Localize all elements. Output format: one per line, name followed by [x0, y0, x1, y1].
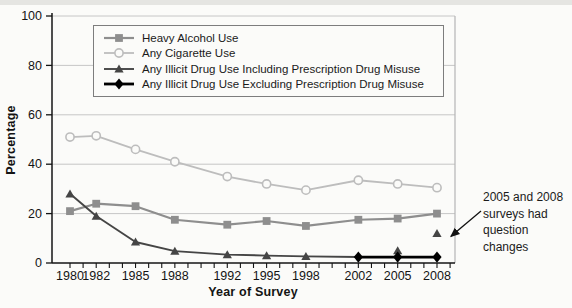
marker-square-1992 [223, 221, 231, 229]
series-line-heavy-alcohol-use [70, 204, 437, 226]
marker-square-1988 [171, 216, 179, 224]
series-any-illicit-drug-use-including-prescription-drug-misuse [65, 189, 441, 259]
x-tick-label-1992: 1992 [213, 269, 241, 283]
marker-circle-open-1980 [66, 133, 74, 141]
marker-square-2002 [354, 216, 362, 224]
annotation-line: surveys had [483, 206, 572, 223]
y-ticks: 020406080100 [21, 9, 52, 270]
x-tick-label-2005: 2005 [384, 269, 412, 283]
x-tick-label-1982: 1982 [82, 269, 110, 283]
marker-square-1998 [302, 222, 310, 230]
legend-label: Heavy Alcohol Use [142, 32, 239, 44]
annotation-line: 2005 and 2008 [483, 189, 572, 206]
legend-sample-marker [115, 49, 123, 57]
marker-circle-open-2008 [433, 184, 441, 192]
marker-circle-open-1988 [171, 158, 179, 166]
x-tick-label-2002: 2002 [344, 269, 372, 283]
marker-triangle-1980 [65, 189, 74, 197]
legend-item-any-illicit-drug-use-including-prescription-drug-misuse: Any Illicit Drug Use Including Prescript… [103, 62, 443, 76]
marker-circle-open-1998 [302, 186, 310, 194]
legend-item-any-cigarette-use: Any Cigarette Use [103, 46, 443, 60]
survey-trend-figure: 0204060801001980198219851988199219951998… [0, 0, 572, 308]
x-tick-label-2008: 2008 [423, 269, 451, 283]
y-tick-label-100: 100 [21, 9, 42, 23]
y-tick-label-0: 0 [35, 256, 42, 270]
legend-label: Any Illicit Drug Use Excluding Prescript… [142, 78, 424, 90]
marker-diamond-2008 [432, 251, 441, 262]
y-tick-label-60: 60 [28, 108, 42, 122]
legend-label: Any Cigarette Use [142, 47, 235, 59]
x-axis-title: Year of Survey [188, 285, 318, 299]
x-tick-label-1998: 1998 [292, 269, 320, 283]
y-tick-label-20: 20 [28, 207, 42, 221]
legend-sample-marker [115, 34, 123, 42]
annotation-note: 2005 and 2008 surveys had question chang… [483, 189, 572, 255]
y-tick-label-40: 40 [28, 157, 42, 171]
legend: Heavy Alcohol UseAny Cigarette UseAny Il… [93, 25, 444, 97]
series-line-any-cigarette-use [70, 136, 437, 190]
triangle-marker-sample-icon [103, 62, 135, 76]
x-tick-label-1980: 1980 [56, 269, 84, 283]
marker-circle-open-1982 [92, 132, 100, 140]
series-heavy-alcohol-use [66, 200, 441, 230]
legend-label: Any Illicit Drug Use Including Prescript… [142, 63, 420, 75]
x-tick-label-1985: 1985 [122, 269, 150, 283]
square-marker-sample-icon [103, 31, 135, 45]
annotation-line: changes [483, 239, 572, 256]
marker-square-1982 [92, 200, 100, 208]
series-any-cigarette-use [66, 132, 441, 195]
legend-item-heavy-alcohol-use: Heavy Alcohol Use [103, 31, 443, 45]
x-tick-label-1995: 1995 [253, 269, 281, 283]
marker-square-1980 [66, 207, 74, 215]
diamond-marker-sample-icon [103, 77, 135, 91]
marker-triangle-2008 [432, 229, 441, 237]
marker-square-1985 [132, 202, 140, 210]
marker-circle-open-2005 [394, 180, 402, 188]
circle-open-marker-sample-icon [103, 46, 135, 60]
x-ticks: 1980198219851988199219951998200220052008 [56, 263, 451, 283]
y-axis-title: Percentage [4, 75, 18, 205]
marker-circle-open-2002 [354, 176, 362, 184]
marker-circle-open-1992 [223, 172, 231, 180]
legend-sample-marker [114, 79, 123, 90]
marker-circle-open-1985 [131, 145, 139, 153]
legend-item-any-illicit-drug-use-excluding-prescription-drug-misuse: Any Illicit Drug Use Excluding Prescript… [103, 77, 443, 91]
marker-circle-open-1995 [263, 180, 271, 188]
marker-square-2005 [394, 215, 402, 223]
x-tick-label-1988: 1988 [161, 269, 189, 283]
marker-diamond-2002 [354, 251, 363, 262]
series-any-illicit-drug-use-excluding-prescription-drug-misuse [354, 251, 442, 262]
annotation-line: question [483, 222, 572, 239]
marker-square-2008 [433, 210, 441, 218]
y-tick-label-80: 80 [28, 59, 42, 73]
marker-square-1995 [263, 217, 271, 225]
